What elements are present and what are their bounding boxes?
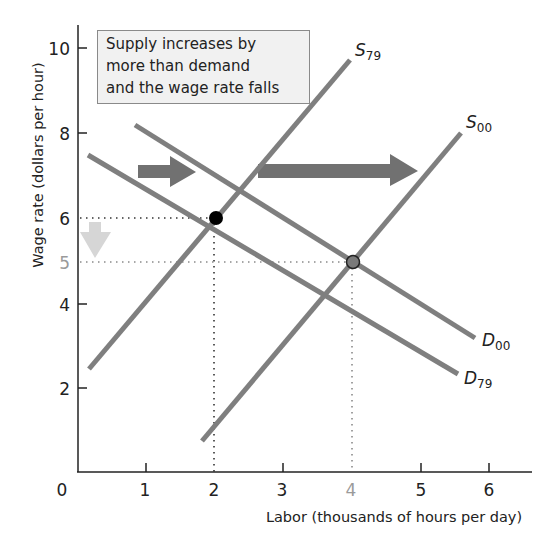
- y-tick-2: 2: [59, 379, 70, 399]
- y-tick-8: 8: [59, 124, 70, 144]
- demand-curve-d79: [88, 155, 458, 374]
- label-d79: D79: [464, 368, 492, 391]
- label-s79: S79: [355, 40, 381, 63]
- supply-shift-arrow: [258, 154, 418, 186]
- annotation-line-3: and the wage rate falls: [106, 77, 301, 99]
- x-tick-0: 0: [57, 480, 68, 500]
- annotation-box: Supply increases by more than demand and…: [97, 30, 310, 104]
- x-ticks: [146, 463, 489, 472]
- supply-curve-s00: [202, 133, 461, 441]
- y-tick-10: 10: [48, 39, 70, 59]
- x-tick-1: 1: [140, 480, 151, 500]
- label-d00: D00: [482, 330, 510, 353]
- x-tick-4: 4: [346, 480, 357, 500]
- y-tick-5: 5: [59, 253, 70, 273]
- x-tick-6: 6: [484, 480, 495, 500]
- annotation-line-1: Supply increases by: [106, 33, 301, 55]
- x-tick-3: 3: [277, 480, 288, 500]
- y-ticks: [78, 48, 87, 388]
- x-axis-title: Labor (thousands of hours per day): [266, 509, 522, 525]
- demand-curve-d00: [135, 125, 475, 338]
- x-tick-2: 2: [209, 480, 220, 500]
- initial-equilibrium-point: [209, 211, 223, 225]
- label-s00: S00: [466, 112, 492, 135]
- x-tick-5: 5: [416, 480, 427, 500]
- annotation-line-2: more than demand: [106, 55, 301, 77]
- new-equilibrium-point: [347, 256, 360, 269]
- y-tick-6: 6: [59, 209, 70, 229]
- wage-fall-arrow: [80, 222, 111, 258]
- y-tick-4: 4: [59, 295, 70, 315]
- y-axis-title: Wage rate (dollars per hour): [30, 62, 46, 267]
